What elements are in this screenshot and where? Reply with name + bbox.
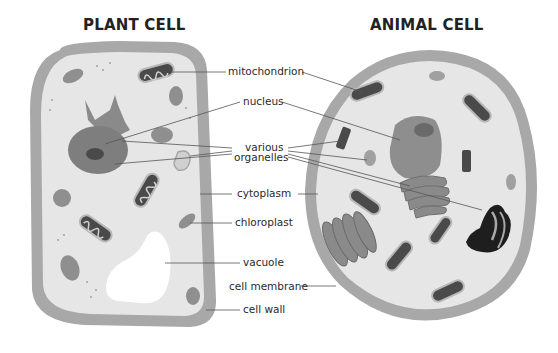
animal-nucleus — [390, 116, 442, 178]
label-vacuole: vacuole — [243, 256, 284, 268]
animal-nucleolus — [414, 123, 434, 137]
plant-cell — [30, 41, 216, 327]
animal-vesicle — [364, 150, 376, 166]
label-organelles: organelles — [234, 151, 289, 163]
plant-nucleolus — [86, 148, 104, 160]
plant-chloroplast — [53, 189, 71, 207]
label-nucleus: nucleus — [243, 95, 284, 107]
animal-centriole — [462, 150, 471, 172]
plant-chloroplast — [151, 127, 173, 143]
label-cell-wall: cell wall — [243, 303, 285, 315]
plant-chloroplast — [169, 86, 183, 106]
cell-diagram — [0, 0, 558, 353]
animal-cell — [305, 50, 537, 321]
label-cell-membrane: cell membrane — [229, 280, 308, 292]
label-chloroplast: chloroplast — [235, 216, 293, 228]
animal-vesicle — [429, 71, 445, 81]
label-cytoplasm: cytoplasm — [237, 187, 291, 199]
label-mitochondrion: mitochondrion — [228, 65, 304, 77]
plant-chloroplast — [186, 287, 200, 305]
animal-vesicle — [506, 174, 516, 190]
